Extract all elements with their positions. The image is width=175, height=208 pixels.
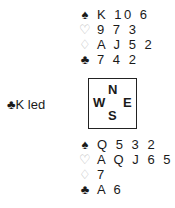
heart-icon: ♡ <box>78 22 92 37</box>
compass-north: N <box>108 83 117 96</box>
compass-east: E <box>123 96 132 109</box>
heart-icon: ♡ <box>78 152 92 167</box>
compass-south: S <box>108 109 117 122</box>
south-diamonds-cards: 7 <box>97 167 107 182</box>
club-icon: ♣ <box>7 97 16 112</box>
club-icon: ♣ <box>78 182 92 197</box>
club-icon: ♣ <box>78 52 92 67</box>
south-clubs-cards: A 6 <box>97 182 123 197</box>
north-clubs-cards: 7 4 2 <box>97 52 138 67</box>
spade-icon: ♠ <box>78 7 92 22</box>
north-spades-cards: K 10 6 <box>97 7 150 22</box>
opening-lead: ♣K led <box>7 97 45 112</box>
compass-box: N W E S <box>88 78 137 129</box>
north-diamonds-cards: A J 5 2 <box>97 37 154 52</box>
spade-icon: ♠ <box>78 137 92 152</box>
compass-west: W <box>93 96 105 109</box>
lead-text: K led <box>16 97 46 112</box>
south-spades-cards: Q 5 3 2 <box>97 137 157 152</box>
diamond-icon: ♢ <box>78 167 92 182</box>
south-hearts-cards: A Q J 6 5 2 <box>97 152 175 167</box>
diamond-icon: ♢ <box>78 37 92 52</box>
north-hearts-cards: 9 7 3 <box>97 22 138 37</box>
